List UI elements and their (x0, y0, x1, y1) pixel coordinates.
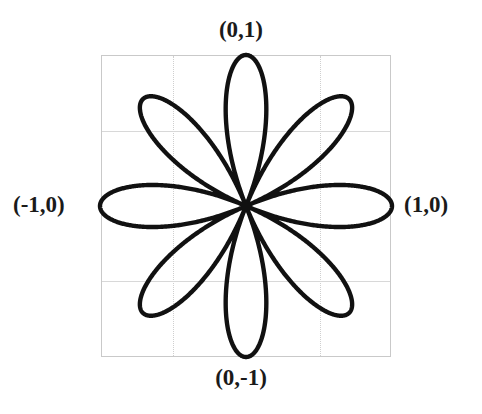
gridline-horizontal-bottom (102, 281, 390, 282)
axis-label-bottom: (0,-1) (0, 366, 482, 389)
gridline-horizontal-top (102, 131, 390, 132)
rose-curve-figure: (0,1) (1,0) (0,-1) (-1,0) (0, 0, 482, 414)
axis-label-left: (-1,0) (13, 193, 65, 216)
gridline-vertical-right (320, 56, 321, 356)
gridline-vertical-left (173, 56, 174, 356)
plot-frame (101, 55, 391, 357)
axis-label-right: (1,0) (404, 193, 448, 216)
axis-label-top: (0,1) (0, 18, 482, 41)
